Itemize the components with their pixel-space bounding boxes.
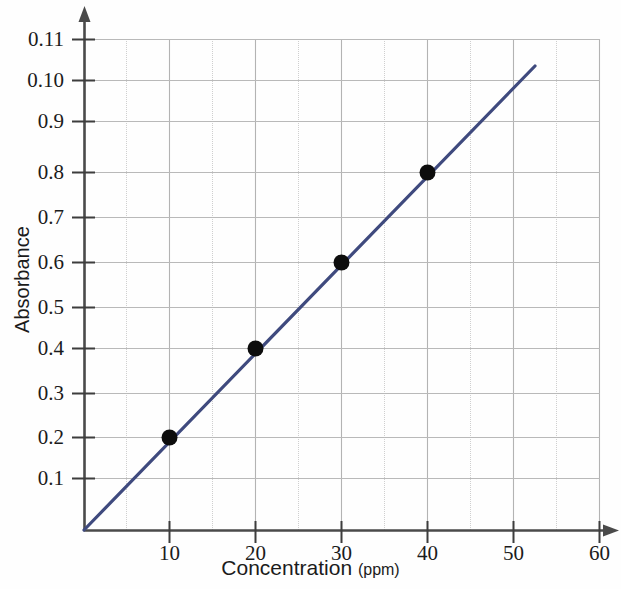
- y-tick-label: 0.11: [0, 27, 64, 52]
- absorbance-vs-concentration-chart: 0.11 0.10 0.9 0.8 0.7 0.6 0.5 0.4 0.3 0.…: [0, 0, 621, 589]
- x-axis-ticks: [170, 521, 600, 543]
- x-axis-title: Concentration (ppm): [0, 556, 621, 580]
- data-point: [420, 165, 436, 181]
- x-axis-title-text: Concentration: [221, 556, 352, 579]
- y-tick-label: 0.2: [0, 425, 64, 450]
- x-axis-title-unit: (ppm): [358, 561, 400, 578]
- major-vertical-gridlines: [170, 39, 600, 530]
- y-tick-label: 0.9: [0, 109, 64, 134]
- y-tick-label: 0.10: [0, 68, 64, 93]
- y-axis: [79, 6, 91, 530]
- y-axis-title: Absorbance: [11, 200, 34, 360]
- data-point: [248, 341, 264, 357]
- x-axis: [84, 525, 619, 537]
- y-tick-label: 0.1: [0, 466, 64, 491]
- data-point: [162, 430, 178, 446]
- trend-line: [84, 66, 535, 530]
- plot-area: [0, 0, 621, 589]
- data-point: [334, 255, 350, 271]
- y-tick-label: 0.3: [0, 381, 64, 406]
- y-tick-label: 0.8: [0, 160, 64, 185]
